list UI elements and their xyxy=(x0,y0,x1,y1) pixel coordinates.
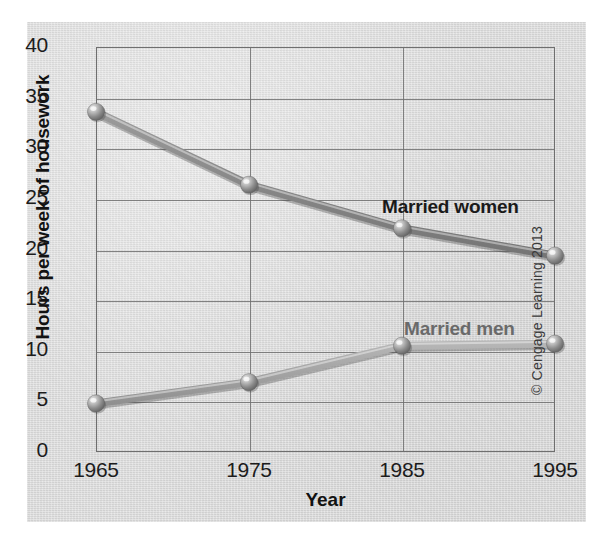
gridline-horizontal xyxy=(97,149,554,150)
gridline-vertical xyxy=(250,48,251,451)
gridline-horizontal xyxy=(97,99,554,100)
gridline-horizontal xyxy=(97,301,554,302)
x-axis-tick-label: 1965 xyxy=(41,458,151,482)
gridline-horizontal xyxy=(97,251,554,252)
y-axis-title: Hours per week of housework xyxy=(32,42,54,372)
x-axis-title: Year xyxy=(96,489,555,511)
gridline-horizontal xyxy=(97,352,554,353)
plot-area xyxy=(96,47,555,452)
series-label-married-women: Married women xyxy=(382,196,519,218)
y-axis-tick-label: 5 xyxy=(0,387,48,411)
gridline-horizontal xyxy=(97,402,554,403)
gridline-vertical xyxy=(403,48,404,451)
copyright-notice: © Cengage Learning 2013 xyxy=(529,165,545,395)
x-axis-tick-label: 1975 xyxy=(194,458,304,482)
series-label-married-men: Married men xyxy=(404,318,515,340)
x-axis-tick-label: 1995 xyxy=(500,458,610,482)
x-axis-tick-label: 1985 xyxy=(347,458,457,482)
